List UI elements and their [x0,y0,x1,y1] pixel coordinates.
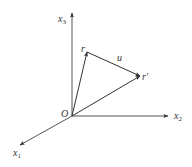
vector-r [72,52,87,116]
x2-axis-label: x2 [173,110,182,123]
x1-axis-label: x1 [12,147,21,160]
vector-diagram: x3 x2 x1 O r r′ u [0,0,192,167]
r-prime-label: r′ [142,71,149,82]
x3-axis-label: x3 [57,13,66,26]
u-label: u [117,52,122,63]
vector-u [87,52,140,76]
vector-r-prime [72,76,140,116]
x1-axis [20,116,72,145]
origin-label: O [61,108,68,119]
r-label: r [81,43,85,54]
